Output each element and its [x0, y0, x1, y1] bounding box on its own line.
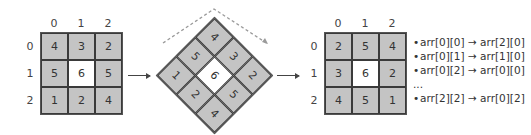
grid-cell: 2: [325, 33, 352, 60]
mapping-text: arr[0][0] → arr[2][0]: [420, 36, 525, 48]
bullet: •: [413, 49, 420, 63]
bullet: •: [413, 63, 420, 77]
grid-cell-center: 6: [352, 60, 379, 87]
list-item: •arr[2][2] → arr[0][2]: [413, 91, 525, 105]
mapping-text: arr[0][2] → arr[0][0]: [420, 64, 525, 76]
mapping-text: arr[2][2] → arr[0][2]: [420, 92, 525, 104]
list-item: •arr[0][0] → arr[2][0]: [413, 35, 525, 49]
mapping-text: ...: [413, 78, 423, 90]
row-label: 1: [307, 68, 321, 80]
result-grid: 2 5 4 3 6 2 4 5 1: [324, 32, 407, 115]
list-item-ellipsis: ...: [413, 77, 525, 91]
mapping-list: •arr[0][0] → arr[2][0] •arr[0][1] → arr[…: [413, 35, 525, 105]
grid-cell: 2: [379, 60, 406, 87]
grid-cell: 4: [325, 87, 352, 114]
grid-cell: 5: [352, 33, 379, 60]
col-label: 1: [358, 18, 372, 30]
list-item: •arr[0][1] → arr[1][0]: [413, 49, 525, 63]
grid-cell: 5: [352, 87, 379, 114]
bullet: •: [413, 91, 420, 105]
col-label: 2: [385, 18, 399, 30]
row-label: 0: [307, 41, 321, 53]
bullet: •: [413, 35, 420, 49]
grid-cell: 1: [379, 87, 406, 114]
row-label: 2: [307, 95, 321, 107]
mapping-text: arr[0][1] → arr[1][0]: [420, 50, 525, 62]
list-item: •arr[0][2] → arr[0][0]: [413, 63, 525, 77]
col-label: 0: [331, 18, 345, 30]
grid-cell: 3: [325, 60, 352, 87]
right-arrow-icon: [277, 75, 299, 76]
grid-cell: 4: [379, 33, 406, 60]
